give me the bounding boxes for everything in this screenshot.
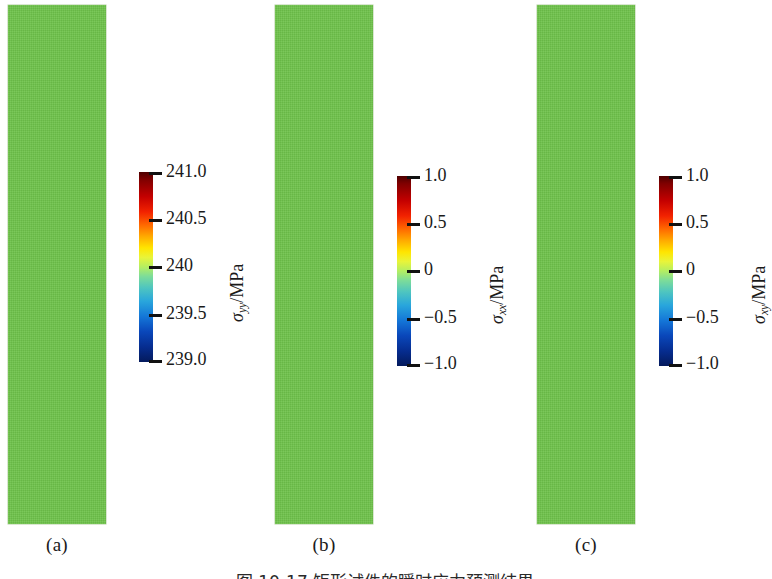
- colorbar-tick-label-a-0: 241.0: [166, 161, 207, 182]
- colorbar-tick-c-4: [669, 364, 682, 367]
- colorbar-tick-b-2: [407, 270, 420, 273]
- colorbar-tick-a-2: [149, 266, 162, 269]
- colorbar-tick-label-c-4: −1.0: [686, 353, 719, 374]
- colorbar-c: 1.0 0.5 0 −0.5 −1.0 σxy/MPa: [659, 176, 769, 368]
- stress-field-map-a: [8, 5, 106, 524]
- colorbar-tick-c-3: [669, 318, 682, 321]
- colorbar-tick-c-0: [669, 176, 682, 179]
- colorbar-axis-label-b: σxx/MPa: [487, 266, 510, 324]
- colorbar-axis-label-c: σxy/MPa: [749, 266, 772, 324]
- colorbar-tick-label-b-3: −0.5: [424, 307, 457, 328]
- colorbar-tick-label-a-2: 240: [166, 255, 193, 276]
- colorbar-axis-label-a: σyy/MPa: [227, 264, 250, 322]
- colorbar-tick-label-c-2: 0: [686, 259, 695, 280]
- colorbar-tick-a-4: [149, 360, 162, 363]
- panel-caption-c: (c): [537, 534, 635, 556]
- figure-caption: 图 10-17 矩形试件的瞬时应力预测结果: [0, 568, 770, 579]
- stress-field-map-b: [275, 5, 373, 524]
- colorbar-tick-label-c-1: 0.5: [686, 212, 709, 233]
- panel-caption-b: (b): [275, 534, 373, 556]
- colorbar-tick-c-2: [669, 270, 682, 273]
- colorbar-tick-a-0: [149, 172, 162, 175]
- colorbar-tick-label-a-3: 239.5: [166, 303, 207, 324]
- colorbar-tick-label-b-0: 1.0: [424, 165, 447, 186]
- colorbar-tick-b-0: [407, 176, 420, 179]
- colorbar-tick-b-3: [407, 318, 420, 321]
- panel-group-a: (a) 241.0 240.5 240 239.5 239.0 σyy/MPa: [0, 0, 250, 579]
- colorbar-tick-label-a-1: 240.5: [166, 208, 207, 229]
- colorbar-tick-label-b-1: 0.5: [424, 212, 447, 233]
- colorbar-tick-label-c-3: −0.5: [686, 307, 719, 328]
- panel-caption-a: (a): [8, 534, 106, 556]
- panel-group-b: (b) 1.0 0.5 0 −0.5 −1.0 σxx/MPa: [262, 0, 512, 579]
- colorbar-tick-a-1: [149, 219, 162, 222]
- colorbar-tick-b-1: [407, 223, 420, 226]
- colorbar-tick-label-c-0: 1.0: [686, 165, 709, 186]
- colorbar-a: 241.0 240.5 240 239.5 239.0 σyy/MPa: [139, 172, 249, 364]
- colorbar-tick-label-b-4: −1.0: [424, 353, 457, 374]
- colorbar-tick-b-4: [407, 364, 420, 367]
- colorbar-tick-a-3: [149, 314, 162, 317]
- colorbar-tick-label-b-2: 0: [424, 259, 433, 280]
- colorbar-b: 1.0 0.5 0 −0.5 −1.0 σxx/MPa: [397, 176, 507, 368]
- colorbar-tick-c-1: [669, 223, 682, 226]
- panel-group-c: (c) 1.0 0.5 0 −0.5 −1.0 σxy/MPa: [524, 0, 770, 579]
- stress-field-map-c: [537, 5, 635, 524]
- colorbar-tick-label-a-4: 239.0: [166, 349, 207, 370]
